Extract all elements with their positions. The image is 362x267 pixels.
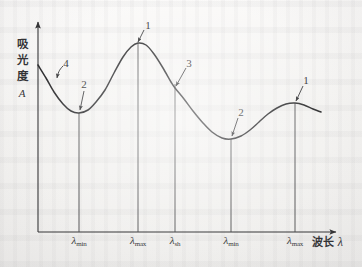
y-axis-symbol: A bbox=[12, 87, 32, 99]
leader-1-b bbox=[296, 86, 303, 101]
leader-1-a bbox=[138, 30, 144, 42]
callout-1-b: 1 bbox=[303, 74, 309, 86]
callout-3: 3 bbox=[186, 57, 192, 69]
x-axis-title-text: 波长 bbox=[312, 236, 334, 249]
leader-2-b bbox=[232, 118, 238, 136]
tick-label-lambda-min-2: λmin bbox=[223, 234, 238, 248]
tick-label-subscript: min bbox=[228, 240, 238, 248]
tick-label-subscript: min bbox=[76, 240, 86, 248]
x-axis-title: 波长 λ bbox=[312, 233, 343, 250]
tick-label-subscript: max bbox=[292, 240, 303, 248]
callout-leader-lines bbox=[57, 30, 303, 136]
tick-label-lambda-sh: λsh bbox=[170, 234, 181, 248]
leader-3 bbox=[176, 68, 186, 86]
tick-label-lambda-max-2: λmax bbox=[287, 234, 303, 248]
callout-4: 4 bbox=[63, 57, 69, 69]
callout-2-b: 2 bbox=[238, 106, 244, 118]
callout-2-a: 2 bbox=[81, 78, 87, 90]
leader-4 bbox=[57, 66, 63, 78]
tick-label-lambda-min-1: λmin bbox=[71, 234, 86, 248]
drop-lines bbox=[79, 43, 295, 232]
callout-1-a: 1 bbox=[145, 19, 151, 31]
figure-page: 吸光度 A 波长 λ λminλmaxλshλminλmax 421321 bbox=[0, 0, 362, 267]
leader-2-a bbox=[80, 91, 84, 110]
lambda-symbol: λ bbox=[338, 235, 343, 249]
absorption-spectrum-figure bbox=[0, 0, 362, 267]
tick-label-subscript: max bbox=[135, 240, 146, 248]
absorbance-curve bbox=[38, 43, 321, 139]
tick-label-subscript: sh bbox=[174, 240, 180, 248]
tick-label-lambda-max-1: λmax bbox=[130, 234, 146, 248]
y-axis-title: 吸光度 bbox=[12, 36, 32, 84]
